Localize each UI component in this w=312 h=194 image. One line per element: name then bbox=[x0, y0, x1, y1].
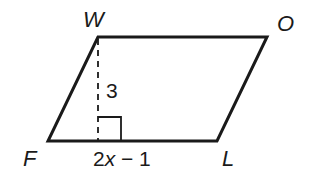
parallelogram-diagram: W O L F 3 2x − 1 bbox=[0, 0, 312, 194]
right-angle-marker bbox=[98, 117, 121, 141]
base-length-label: 2x − 1 bbox=[93, 147, 151, 170]
vertex-label-o: O bbox=[277, 11, 294, 36]
base-label-constant: − 1 bbox=[115, 147, 151, 170]
parallelogram-shape bbox=[48, 37, 267, 141]
base-label-coefficient: 2 bbox=[93, 147, 105, 170]
vertex-label-w: W bbox=[83, 7, 106, 32]
vertex-label-f: F bbox=[23, 146, 38, 171]
height-label: 3 bbox=[106, 79, 118, 102]
vertex-label-l: L bbox=[222, 146, 234, 171]
